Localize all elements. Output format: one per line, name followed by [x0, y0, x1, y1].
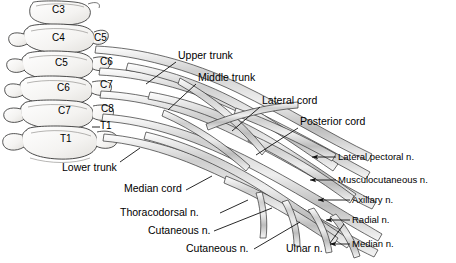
nerve-label-musculocutaneous: Musculocutaneous n.	[338, 174, 428, 185]
vertebra-t1	[3, 126, 118, 163]
trunk-label-upper: Upper trunk	[178, 50, 233, 61]
vertebra-label-c5: C5	[55, 57, 68, 68]
nerve-label-cutaneous-2: Cutaneous n.	[186, 243, 248, 254]
root-label-c8: C8	[101, 103, 114, 114]
cord-label-median: Median cord	[124, 183, 182, 194]
nerve-label-axillary: Axillary n.	[352, 194, 393, 205]
cord-label-posterior: Posterior cord	[300, 116, 365, 127]
cord-label-lateral: Lateral cord	[262, 95, 317, 106]
trunk-label-lower: Lower trunk	[62, 162, 117, 173]
nerve-label-lateral-pectoral: Lateral pectoral n.	[338, 151, 414, 162]
vertebra-label-c3: C3	[52, 4, 65, 15]
vertebra-label-c6: C6	[57, 82, 70, 93]
root-label-c6: C6	[100, 56, 113, 67]
nerve-median-cord	[224, 176, 338, 245]
vertebra-label-t1: T1	[60, 133, 72, 144]
brachial-plexus-figure: C3 C4 C5 C6 C7 T1 C5 C6 C7 C8 T1 Upper t…	[0, 0, 456, 263]
vertebra-label-c7: C7	[58, 105, 71, 116]
root-label-t1: T1	[100, 120, 112, 131]
nerve-label-median: Median n.	[352, 238, 394, 249]
nerve-label-thoracodorsal: Thoracodorsal n.	[120, 207, 199, 218]
root-label-c5: C5	[94, 32, 107, 43]
trunk-label-middle: Middle trunk	[198, 72, 255, 83]
nerve-label-ulnar: Ulnar n.	[286, 243, 323, 254]
nerve-label-radial: Radial n.	[352, 214, 390, 225]
root-label-c7: C7	[100, 79, 113, 90]
nerve-label-cutaneous-1: Cutaneous n.	[148, 225, 210, 236]
vertebra-label-c4: C4	[52, 32, 65, 43]
